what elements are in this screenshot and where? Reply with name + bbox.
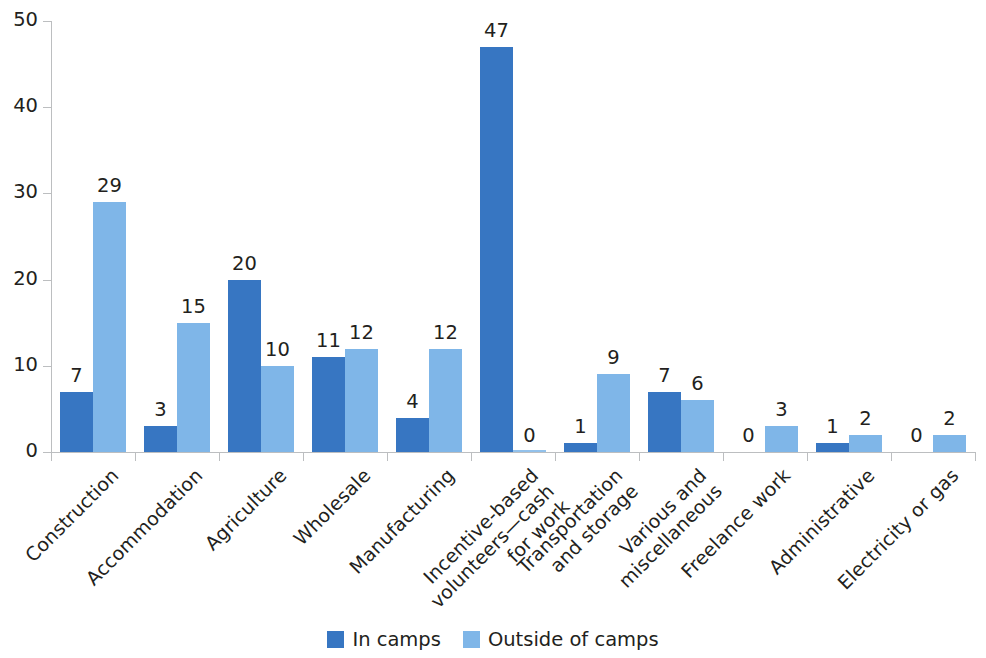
bar-value-1-1: 15	[167, 297, 220, 317]
bar-1-10	[933, 435, 966, 452]
x-tick-4	[387, 452, 388, 461]
bar-value-1-5: 0	[503, 426, 556, 446]
x-tick-7	[639, 452, 640, 461]
bar-value-1-10: 2	[923, 409, 976, 429]
y-tick-label-10: 10	[0, 353, 38, 376]
bar-0-7	[648, 392, 681, 452]
bar-value-1-3: 12	[335, 323, 388, 343]
bar-1-3	[345, 349, 378, 452]
bar-1-6	[597, 374, 630, 452]
bar-1-9	[849, 435, 882, 452]
chart-legend: In campsOutside of camps	[0, 628, 986, 651]
y-tick-40	[43, 107, 52, 108]
bar-1-1	[177, 323, 210, 452]
bar-0-2	[228, 280, 261, 452]
bar-1-7	[681, 400, 714, 452]
y-tick-label-30: 30	[0, 180, 38, 203]
x-label-3: Wholesale	[289, 464, 374, 549]
bar-1-4	[429, 349, 462, 452]
y-tick-20	[43, 280, 52, 281]
x-tick-10	[891, 452, 892, 461]
bar-1-8	[765, 426, 798, 452]
y-tick-label-50: 50	[0, 8, 38, 31]
y-tick-label-0: 0	[0, 439, 38, 462]
bar-value-0-5: 47	[470, 21, 523, 41]
bar-0-6	[564, 443, 597, 452]
bar-value-1-9: 2	[839, 409, 892, 429]
legend-item-1[interactable]: Outside of camps	[463, 628, 659, 651]
x-tick-6	[555, 452, 556, 461]
bar-0-1	[144, 426, 177, 452]
bar-value-1-0: 29	[83, 176, 136, 196]
x-tick-9	[807, 452, 808, 461]
x-label-2: Agriculture	[200, 464, 290, 554]
y-tick-label-20: 20	[0, 267, 38, 290]
bar-value-1-2: 10	[251, 340, 304, 360]
bar-chart: 01020304050 7293152010111241247019760312…	[0, 0, 986, 658]
bar-0-0	[60, 392, 93, 452]
y-tick-50	[43, 21, 52, 22]
bar-value-1-7: 6	[671, 374, 724, 394]
x-tick-0	[51, 452, 52, 461]
x-axis-line	[51, 452, 975, 453]
bar-value-1-8: 3	[755, 400, 808, 420]
bar-1-2	[261, 366, 294, 452]
bar-1-5	[513, 450, 546, 452]
x-tick-11	[975, 452, 976, 461]
y-tick-30	[43, 193, 52, 194]
x-tick-1	[135, 452, 136, 461]
bar-value-1-6: 9	[587, 348, 640, 368]
x-tick-5	[471, 452, 472, 461]
bar-0-3	[312, 357, 345, 452]
legend-label-0: In camps	[352, 628, 441, 651]
x-tick-2	[219, 452, 220, 461]
y-axis-line	[51, 21, 52, 452]
bar-0-9	[816, 443, 849, 452]
bar-value-1-4: 12	[419, 323, 472, 343]
legend-swatch-dark	[327, 631, 344, 648]
y-tick-label-40: 40	[0, 94, 38, 117]
x-tick-8	[723, 452, 724, 461]
x-tick-3	[303, 452, 304, 461]
bar-value-0-2: 20	[218, 254, 271, 274]
bar-1-0	[93, 202, 126, 452]
legend-label-1: Outside of camps	[488, 628, 659, 651]
legend-item-0[interactable]: In camps	[327, 628, 441, 651]
bar-0-5	[480, 47, 513, 452]
legend-swatch-light	[463, 631, 480, 648]
bar-0-4	[396, 418, 429, 452]
